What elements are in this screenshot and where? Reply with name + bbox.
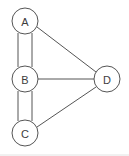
node-a[interactable]: A xyxy=(12,8,38,34)
edge-a-d xyxy=(37,27,96,72)
node-d[interactable]: D xyxy=(94,66,120,92)
node-label-d: D xyxy=(103,74,111,86)
graph-diagram: ABCD xyxy=(0,0,129,156)
node-label-a: A xyxy=(21,16,29,28)
node-layer: ABCD xyxy=(12,8,120,146)
node-label-c: C xyxy=(21,128,29,140)
node-c[interactable]: C xyxy=(12,120,38,146)
node-b[interactable]: B xyxy=(12,66,38,92)
diagram-canvas: ABCD xyxy=(0,0,129,156)
node-label-b: B xyxy=(21,74,28,86)
edge-c-d xyxy=(37,87,96,127)
